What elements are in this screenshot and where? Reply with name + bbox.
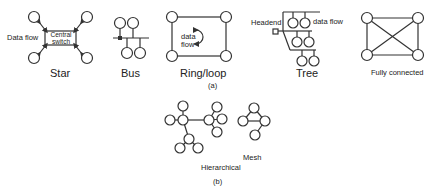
hierarchical-topology — [165, 101, 227, 153]
caption-a: (a) — [208, 82, 217, 90]
caption-b: (b) — [213, 178, 222, 186]
star-title: Star — [50, 68, 70, 79]
bus-topology — [113, 18, 149, 59]
bus-title: Bus — [121, 68, 140, 79]
tree-title: Tree — [296, 68, 318, 79]
headend-label: Headend — [251, 19, 281, 27]
hierarchical-title: Hierarchical — [201, 164, 241, 172]
tree-flow-label: data flow — [313, 18, 343, 26]
ring-flow-label: data flow — [181, 33, 196, 49]
ring-title: Ring/loop — [180, 68, 226, 79]
mesh-title: Mesh — [243, 154, 261, 162]
hub-label-line2: switch — [47, 39, 75, 46]
star-flow-label: Data flow — [7, 34, 38, 42]
ring-topology — [167, 12, 232, 62]
full-title: Fully connected — [371, 69, 424, 77]
central-switch-label: Central switch — [47, 32, 75, 45]
fully-connected-topology — [362, 13, 424, 61]
ring-flow-line2: flow — [181, 41, 196, 49]
headend-box — [273, 29, 278, 34]
mesh-topology — [238, 103, 270, 140]
